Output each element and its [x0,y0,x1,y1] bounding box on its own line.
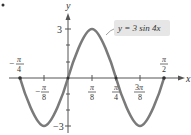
svg-text:8: 8 [138,93,142,102]
svg-text:8: 8 [42,93,46,102]
x-tick-label-3pi-8: 3π 8 [134,83,145,102]
svg-text:π: π [90,83,95,92]
svg-text:3π: 3π [135,83,144,92]
sine-graph: x y 3 −3 − π 4 − π 8 π 8 π 4 [0,0,191,135]
svg-text:−: − [35,86,40,96]
x-tick-label-pi-2: π 2 [160,55,168,74]
x-axis-label: x [185,73,191,84]
svg-text:4: 4 [114,93,118,102]
y-axis-arrow-icon [66,13,71,20]
x-tick-label-neg-pi-4: − π 4 [9,55,24,74]
bullet-dot [2,4,5,7]
svg-text:π: π [162,55,167,64]
x-tick-label-pi-8: π 8 [88,83,96,102]
equation-label: y = 3 sin 4x [117,23,161,33]
svg-text:2: 2 [162,65,166,74]
x-tick-label-neg-pi-8: − π 8 [35,83,49,102]
svg-text:−: − [9,58,14,68]
svg-text:4: 4 [17,65,21,74]
y-axis-label: y [65,0,71,11]
svg-text:π: π [42,83,47,92]
svg-text:π: π [17,55,22,64]
y-tick-neg3: −3 [53,121,64,132]
svg-text:8: 8 [90,93,94,102]
y-tick-3: 3 [57,24,62,35]
x-axis-arrow-icon [178,76,185,81]
